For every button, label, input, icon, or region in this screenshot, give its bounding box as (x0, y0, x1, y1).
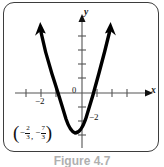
x-tick-label-negative-two: −2 (35, 97, 45, 106)
plot-svg (0, 0, 164, 167)
y-axis-label: y (84, 8, 88, 18)
parabola-path (41, 30, 111, 133)
origin-label: 0 (72, 86, 76, 95)
vertex-coordinate-label: ( − 2 3 , − 7 3 ) (13, 125, 52, 141)
y-tick-label-negative-two: −2 (89, 113, 99, 122)
figure-caption: Figure 4.7 (0, 154, 164, 167)
parabola-curve (35, 22, 116, 133)
figure-screenshot: x y −2 0 −2 ( − 2 3 , − 7 3 ) Figure 4.7 (0, 0, 164, 167)
coordinate-plane: x y −2 0 −2 ( − 2 3 , − 7 3 ) (0, 0, 164, 167)
vertex-close-paren: ) (46, 125, 52, 141)
x-axis-label: x (151, 86, 156, 96)
